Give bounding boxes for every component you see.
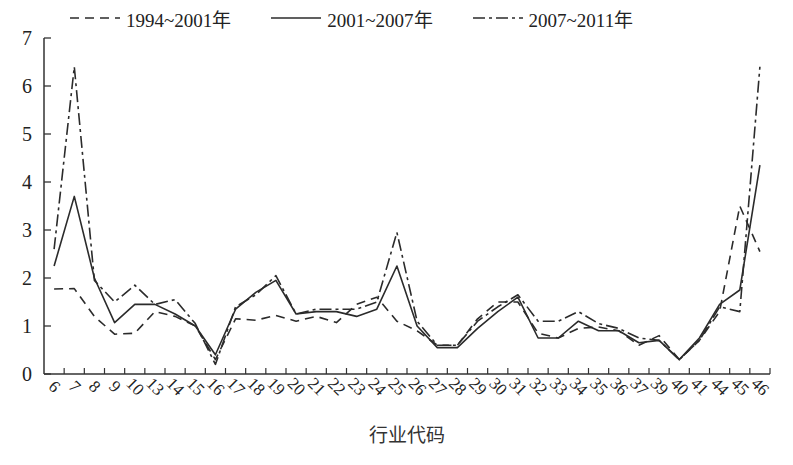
series-2001~2007年 xyxy=(54,165,760,359)
svg-text:7: 7 xyxy=(65,377,85,397)
series-lines xyxy=(54,67,760,365)
legend-label: 1994~2001年 xyxy=(126,5,231,32)
svg-text:6: 6 xyxy=(45,377,64,396)
y-axis-ticks: 01234567 xyxy=(22,27,51,385)
svg-text:7: 7 xyxy=(22,27,32,49)
svg-text:5: 5 xyxy=(22,123,32,145)
legend-item-2001-2007: 2001~2007年 xyxy=(271,5,432,32)
line-chart: 01234567 6789101314151617181920212223242… xyxy=(0,0,793,465)
axes xyxy=(44,38,770,374)
svg-text:6: 6 xyxy=(22,75,32,97)
dashdot-line-icon xyxy=(473,13,523,23)
x-axis-ticks: 6789101314151617181920212223242526272829… xyxy=(45,368,773,400)
legend: 1994~2001年 2001~2007年 2007~2011年 xyxy=(70,3,673,33)
legend-item-1994-2001: 1994~2001年 xyxy=(70,5,231,32)
legend-item-2007-2011: 2007~2011年 xyxy=(473,5,634,32)
legend-label: 2001~2007年 xyxy=(327,5,432,32)
solid-line-icon xyxy=(271,13,321,23)
svg-text:1: 1 xyxy=(22,315,32,337)
legend-label: 2007~2011年 xyxy=(529,5,634,32)
svg-text:2: 2 xyxy=(22,267,32,289)
svg-text:3: 3 xyxy=(22,219,32,241)
svg-text:8: 8 xyxy=(85,377,104,396)
x-axis-label: 行业代码 xyxy=(0,420,793,447)
svg-text:4: 4 xyxy=(22,171,32,193)
series-2007~2011年 xyxy=(54,67,760,365)
svg-text:0: 0 xyxy=(22,363,32,385)
svg-text:46: 46 xyxy=(748,374,773,399)
dashed-line-icon xyxy=(70,13,120,23)
series-1994~2001年 xyxy=(54,206,760,360)
